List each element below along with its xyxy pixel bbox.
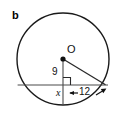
perpendicular-length-label: 9	[52, 67, 58, 77]
part-label: b	[12, 10, 19, 21]
center-dot	[60, 56, 65, 61]
arrow-left-icon	[69, 91, 78, 95]
chord-right-label: 12	[79, 87, 90, 97]
chord-left-label: x	[56, 88, 60, 98]
geometry-figure: b O 9 x 12	[0, 0, 121, 122]
right-angle-marker	[63, 78, 71, 86]
radius-line	[63, 59, 106, 85]
center-point-label: O	[67, 44, 76, 55]
